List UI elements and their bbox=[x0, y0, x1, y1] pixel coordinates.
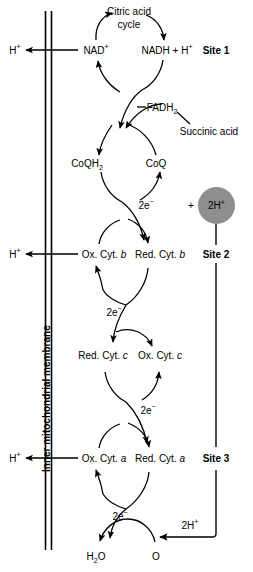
electron-label-1: 2e− bbox=[138, 200, 153, 211]
cytochrome-c-oxidized-label: Ox. Cyt. c bbox=[138, 350, 182, 361]
membrane-label: Inner mitochondrial membrane bbox=[41, 325, 52, 472]
cytb-redox-cycle-arcs bbox=[96, 219, 148, 305]
proton-input-bottom-label: 2H+ bbox=[182, 520, 199, 531]
diagram-vector-layer bbox=[0, 0, 253, 572]
cytochrome-b-reduced-label: Red. Cyt. b bbox=[135, 249, 185, 260]
cyta-redox-cycle-arcs bbox=[96, 423, 149, 509]
proton-export-label-1: H+ bbox=[9, 45, 20, 56]
coq-oxidized-label: CoQ bbox=[146, 158, 167, 169]
oxygen-to-water-arc bbox=[100, 519, 155, 542]
proton-export-label-3: H+ bbox=[9, 453, 20, 464]
electron-label-3: 2e− bbox=[140, 405, 155, 416]
citric-acid-cycle-label-line2: cycle bbox=[118, 19, 141, 30]
nad-reduced-label: NADH + H+ bbox=[141, 45, 192, 56]
cytochrome-c-reduced-label: Red. Cyt. c bbox=[78, 350, 127, 361]
cytochrome-a-oxidized-label: Ox. Cyt. a bbox=[82, 453, 126, 464]
proton-pair-circle: 2H+ bbox=[198, 187, 235, 224]
plus-sign-site2: + bbox=[188, 200, 194, 211]
cytochrome-a-reduced-label: Red. Cyt. a bbox=[135, 453, 185, 464]
coq-reduced-label: CoQH2 bbox=[71, 158, 103, 169]
electron-label-2: 2e− bbox=[106, 307, 121, 318]
proton-feed-line bbox=[160, 224, 216, 537]
succinic-acid-label: Succinic acid bbox=[180, 126, 238, 137]
oxygen-label: O bbox=[152, 551, 160, 562]
nadh-to-coq-connector bbox=[120, 90, 142, 128]
site-2-label: Site 2 bbox=[203, 249, 230, 260]
site-1-label: Site 1 bbox=[203, 45, 230, 56]
site-3-label: Site 3 bbox=[203, 453, 230, 464]
electron-label-4: 2e− bbox=[112, 511, 127, 522]
cytochrome-b-oxidized-label: Ox. Cyt. b bbox=[82, 249, 126, 260]
fadh2-label: FADH2 bbox=[147, 102, 178, 113]
water-label: H2O bbox=[87, 551, 106, 562]
citric-acid-cycle-label-line1: Citric acid bbox=[107, 6, 151, 17]
proton-export-label-2: H+ bbox=[9, 249, 20, 260]
nad-oxidized-label: NAD+ bbox=[83, 45, 108, 56]
proton-pair-label: 2H+ bbox=[208, 200, 225, 211]
electron-transport-chain-diagram: Inner mitochondrial membrane H+ H+ H+ Ci… bbox=[0, 0, 253, 572]
